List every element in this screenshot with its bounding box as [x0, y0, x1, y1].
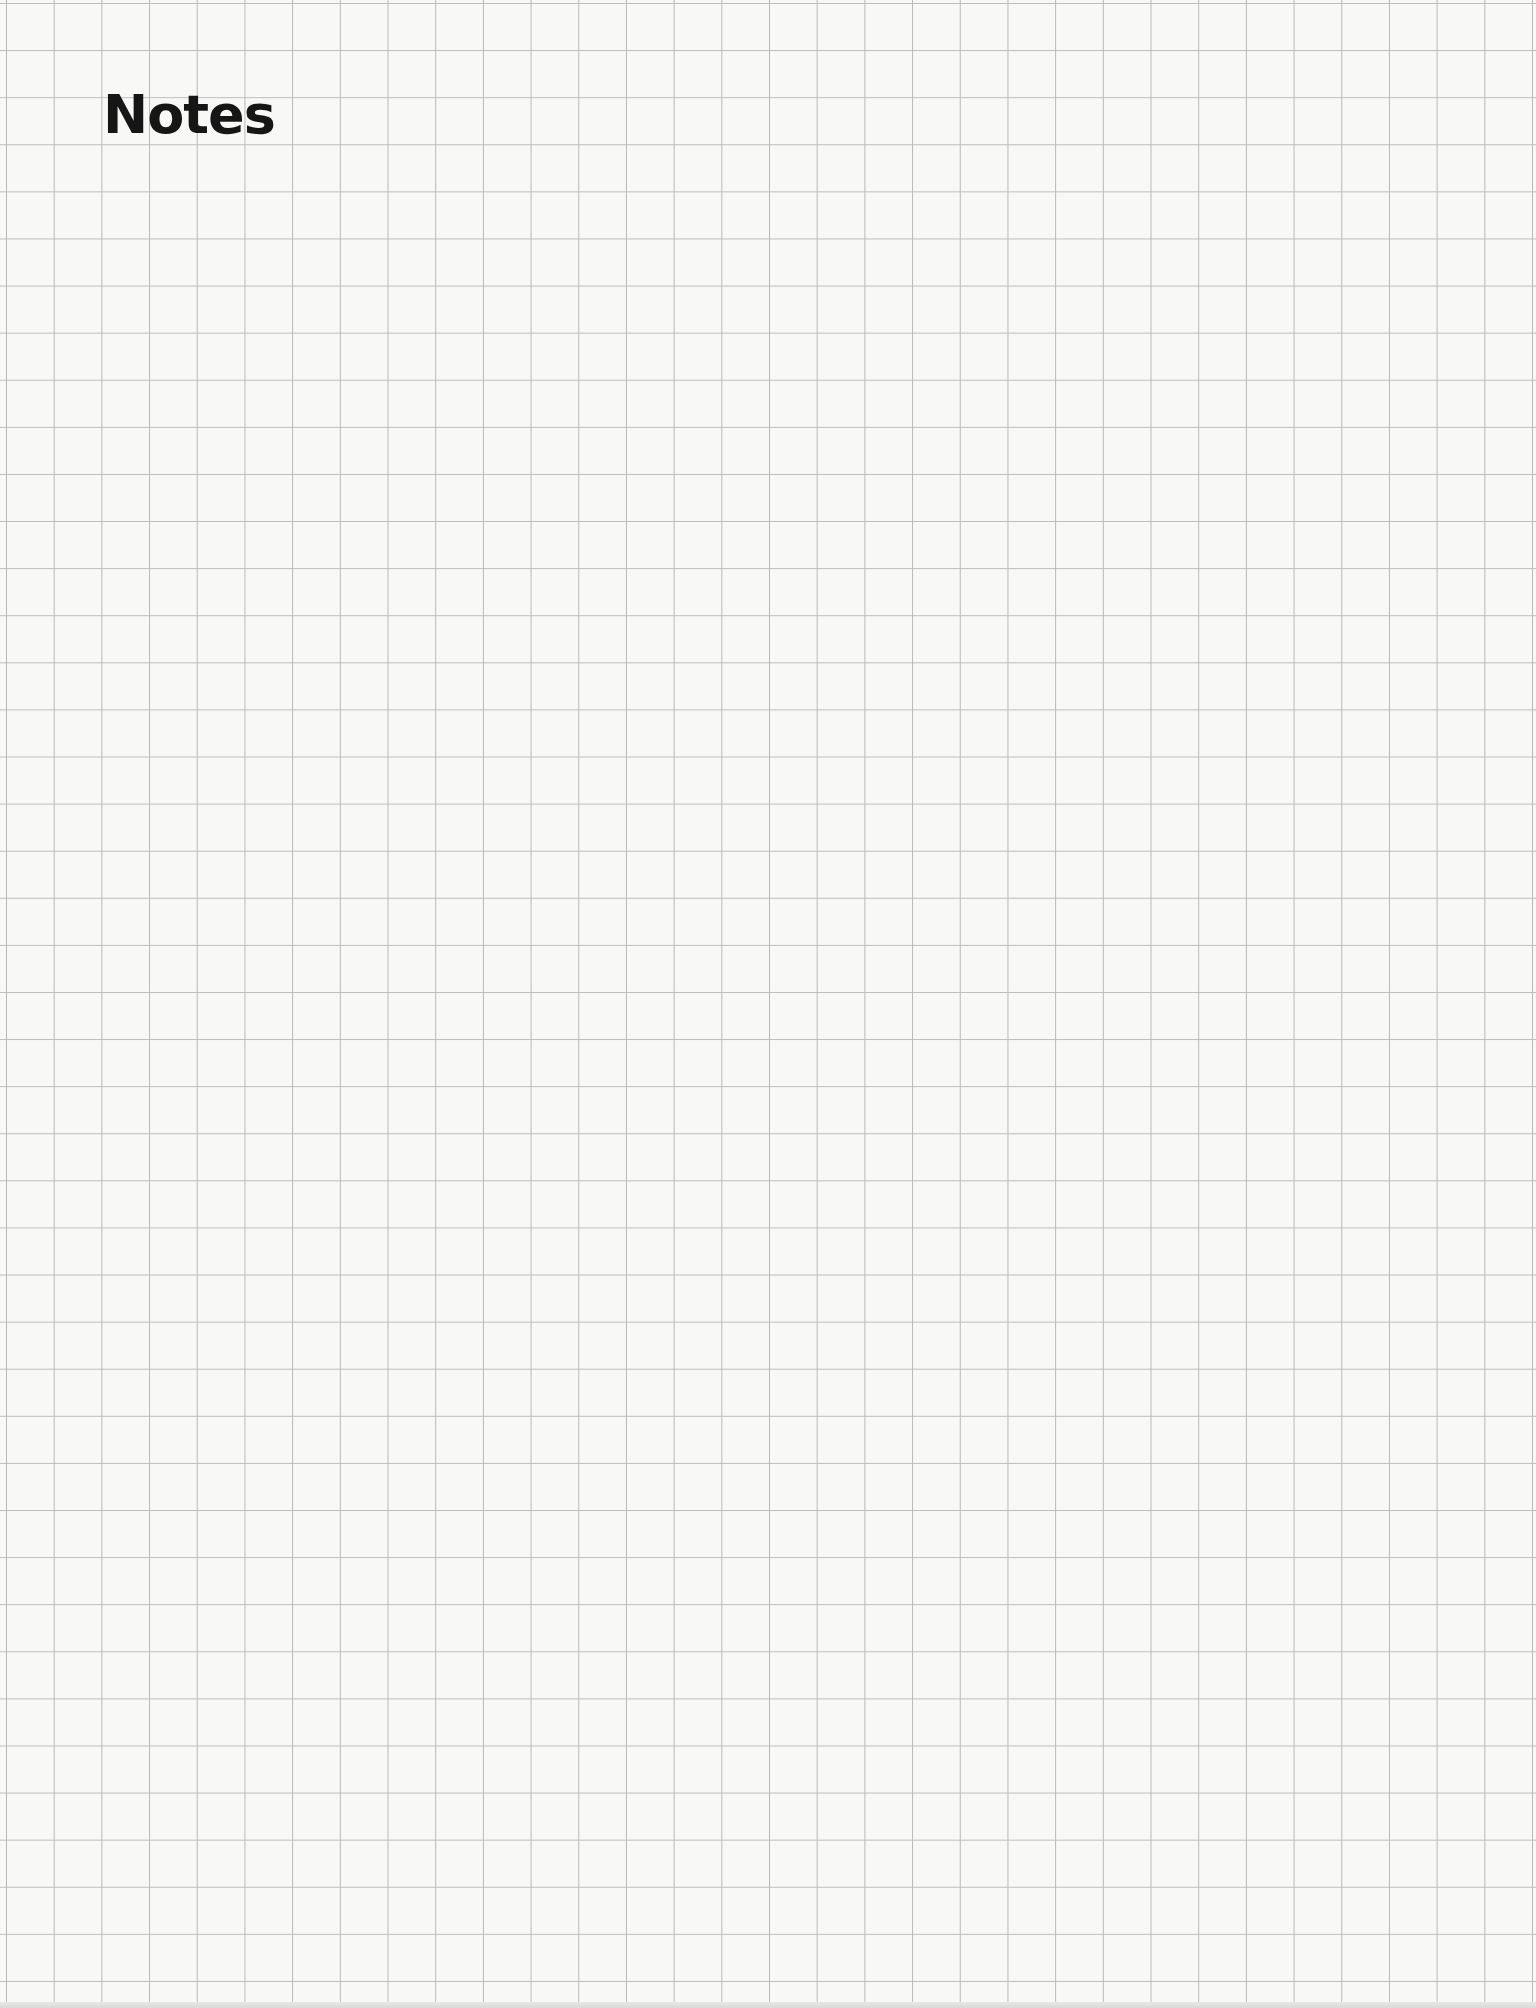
page-title: Notes: [103, 88, 275, 142]
page-bottom-edge: [0, 2002, 1536, 2008]
grid-paper-page: Notes: [0, 0, 1536, 2008]
